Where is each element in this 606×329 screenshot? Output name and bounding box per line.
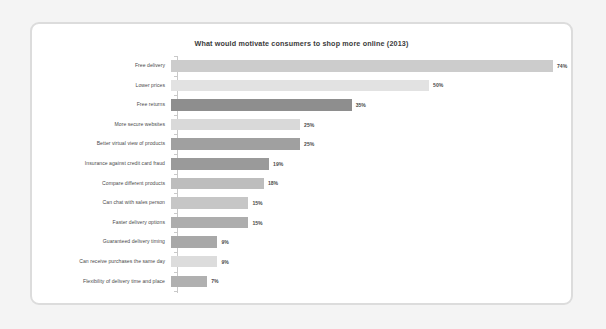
category-label: Can chat with sales person <box>42 200 171 206</box>
bar-row: Guaranteed delivery timing9% <box>42 232 561 252</box>
bar-rows: Free delivery74%Lower prices50%Free retu… <box>42 56 561 291</box>
axis-tick <box>174 174 177 175</box>
bar-row: More secure websites25% <box>42 115 561 135</box>
bar-value-label: 15% <box>252 220 262 226</box>
bar <box>171 276 207 288</box>
bar-track: 18% <box>171 174 561 194</box>
bar-track: 25% <box>171 134 561 154</box>
bar-track: 19% <box>171 154 561 174</box>
bar-track: 9% <box>171 232 561 252</box>
bar-value-label: 15% <box>252 200 262 206</box>
bar-row: Better virtual view of products25% <box>42 134 561 154</box>
bar <box>171 80 429 92</box>
bar-row: Free delivery74% <box>42 56 561 76</box>
bar-value-label: 74% <box>557 63 567 69</box>
bar-row: Lower prices50% <box>42 76 561 96</box>
bar <box>171 158 269 170</box>
category-label: Compare different products <box>42 181 171 187</box>
axis-tick <box>174 115 177 116</box>
axis-tick <box>174 291 177 292</box>
bar-value-label: 19% <box>273 161 283 167</box>
bar <box>171 60 553 72</box>
axis-tick <box>174 252 177 253</box>
category-label: Can receive purchases the same day <box>42 259 171 265</box>
bar <box>171 197 248 209</box>
axis-tick <box>174 272 177 273</box>
bar-track: 7% <box>171 272 561 292</box>
bar-row: Free returns35% <box>42 95 561 115</box>
bar-value-label: 7% <box>211 278 218 284</box>
bar-value-label: 35% <box>356 102 366 108</box>
category-label: Faster delivery options <box>42 220 171 226</box>
bar <box>171 217 248 229</box>
bar <box>171 138 300 150</box>
bar-value-label: 25% <box>304 141 314 147</box>
bar-track: 74% <box>171 56 567 76</box>
bar-row: Compare different products18% <box>42 174 561 194</box>
axis-tick <box>174 154 177 155</box>
bar-value-label: 50% <box>433 82 443 88</box>
bar-value-label: 18% <box>268 180 278 186</box>
chart-title: What would motivate consumers to shop mo… <box>32 39 571 48</box>
bar-track: 15% <box>171 193 561 213</box>
bar <box>171 99 352 111</box>
bar-row: Insurance against credit card fraud19% <box>42 154 561 174</box>
bar-track: 50% <box>171 76 561 96</box>
bar-value-label: 25% <box>304 122 314 128</box>
axis-tick <box>174 56 177 57</box>
bar <box>171 236 217 248</box>
bar-track: 35% <box>171 95 561 115</box>
category-label: Better virtual view of products <box>42 141 171 147</box>
bar <box>171 119 300 131</box>
axis-tick <box>174 193 177 194</box>
bar-value-label: 9% <box>221 239 228 245</box>
bar <box>171 256 217 268</box>
axis-tick <box>174 76 177 77</box>
axis-tick <box>174 213 177 214</box>
category-label: Flexibility of delivery time and place <box>42 279 171 285</box>
category-label: Guaranteed delivery timing <box>42 239 171 245</box>
bar-value-label: 9% <box>221 259 228 265</box>
category-label: More secure websites <box>42 122 171 128</box>
category-label: Lower prices <box>42 83 171 89</box>
chart-card: What would motivate consumers to shop mo… <box>30 22 573 305</box>
axis-tick <box>174 95 177 96</box>
bar-row: Can chat with sales person15% <box>42 193 561 213</box>
axis-tick <box>174 134 177 135</box>
bar <box>171 178 264 190</box>
category-label: Free returns <box>42 102 171 108</box>
bar-track: 15% <box>171 213 561 233</box>
bar-row: Can receive purchases the same day9% <box>42 252 561 272</box>
bar-track: 9% <box>171 252 561 272</box>
bar-row: Flexibility of delivery time and place7% <box>42 272 561 292</box>
bar-track: 25% <box>171 115 561 135</box>
chart-plot-area: Free delivery74%Lower prices50%Free retu… <box>42 56 561 293</box>
bar-row: Faster delivery options15% <box>42 213 561 233</box>
category-label: Insurance against credit card fraud <box>42 161 171 167</box>
axis-tick <box>174 232 177 233</box>
category-label: Free delivery <box>42 63 171 69</box>
